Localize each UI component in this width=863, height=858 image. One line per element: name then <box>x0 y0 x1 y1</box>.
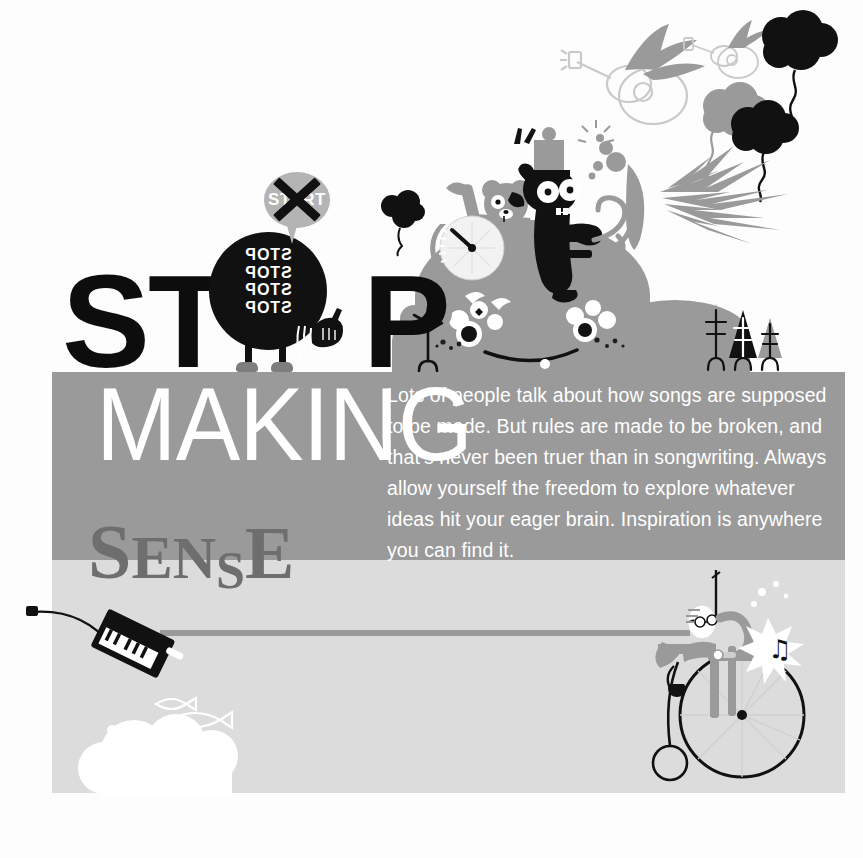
pine-trees-icon <box>698 296 790 376</box>
chant-line-3: STOP <box>244 281 291 298</box>
sense-letter-e2: E <box>245 512 294 594</box>
chant-line-4: STOP <box>244 299 291 316</box>
chant-line-2: STOP <box>244 264 291 281</box>
body-paragraph: Lots of people talk about how songs are … <box>387 380 832 566</box>
penny-farthing-icon: ♫ <box>650 570 835 790</box>
start-bubble-tail <box>286 222 298 244</box>
sound-blast-icon <box>660 140 805 240</box>
sense-letter-e1: E <box>131 523 172 591</box>
motion-lines-icon <box>289 324 323 364</box>
sense-letter-n: N <box>173 525 216 591</box>
trumpet-player-icon <box>500 118 680 303</box>
cable-line <box>160 630 690 636</box>
stop-character-shoe-left <box>236 362 258 372</box>
sense-letter-s2: S <box>216 542 245 599</box>
headline-making: MAKING <box>96 372 375 476</box>
music-note-glyph: ♫ <box>768 634 791 664</box>
small-speech-bubble-icon <box>378 188 428 256</box>
stop-character: STOPSTOPSTOPSTOP <box>209 232 331 362</box>
headline-sense: SENSE <box>88 516 294 597</box>
poster-canvas: ♫ STP MAKING SENSE Lots of people talk a… <box>0 0 863 858</box>
sense-letter-s1: S <box>88 508 131 595</box>
white-cloud-icon <box>72 710 272 796</box>
keytar-icon <box>26 600 186 680</box>
chant-line-1: STOP <box>244 246 291 263</box>
start-speech-bubble[interactable]: START <box>264 172 330 248</box>
